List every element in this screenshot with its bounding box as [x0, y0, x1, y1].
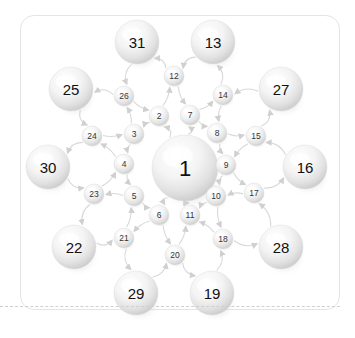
node-label: 13 — [205, 34, 222, 51]
graph-node-25[interactable]: 25 — [49, 67, 93, 111]
graph-edge — [125, 249, 131, 270]
graph-node-29[interactable]: 29 — [114, 271, 158, 315]
graph-edge — [106, 193, 123, 195]
graph-node-31[interactable]: 31 — [115, 20, 159, 64]
figure-canvas: 1234567891011121314151617181920212223242… — [0, 0, 355, 338]
graph-edge — [163, 87, 170, 105]
graph-node-3[interactable]: 3 — [124, 124, 144, 144]
graph-edge — [234, 241, 257, 246]
graph-node-6[interactable]: 6 — [149, 205, 169, 225]
graph-edge — [183, 57, 196, 68]
graph-edge — [163, 225, 170, 244]
graph-edge — [134, 221, 150, 231]
graph-edge — [101, 144, 116, 157]
graph-edge — [235, 89, 258, 94]
graph-edge — [82, 204, 90, 224]
node-label: 15 — [251, 131, 261, 141]
node-label: 3 — [132, 129, 137, 139]
node-label: 16 — [297, 159, 314, 176]
node-label: 20 — [170, 250, 180, 260]
node-label: 4 — [122, 159, 127, 169]
graph-node-27[interactable]: 27 — [259, 67, 303, 111]
graph-node-9[interactable]: 9 — [216, 155, 236, 175]
graph-node-10[interactable]: 10 — [206, 186, 226, 206]
node-label: 10 — [211, 191, 221, 201]
graph-node-19[interactable]: 19 — [190, 271, 234, 315]
graph-node-24[interactable]: 24 — [82, 126, 102, 146]
node-label: 17 — [249, 188, 259, 198]
node-label: 30 — [40, 159, 57, 176]
graph-edge — [102, 172, 116, 186]
graph-node-13[interactable]: 13 — [191, 20, 235, 64]
graph-edge — [95, 90, 113, 95]
graph-edge — [261, 110, 270, 126]
graph-edge — [97, 240, 113, 245]
node-label: 2 — [157, 111, 162, 121]
graph-edge — [127, 108, 131, 124]
node-label: 26 — [119, 91, 129, 101]
node-label: 8 — [215, 128, 220, 138]
node-label: 19 — [204, 285, 221, 302]
graph-node-23[interactable]: 23 — [84, 184, 104, 204]
node-label: 24 — [87, 131, 97, 141]
graph-node-21[interactable]: 21 — [114, 228, 134, 248]
graph-edge — [134, 101, 149, 110]
node-label: 11 — [186, 210, 195, 220]
graph-edge — [259, 204, 270, 227]
graph-node-22[interactable]: 22 — [52, 225, 96, 269]
graph-edge — [68, 142, 83, 153]
graph-node-28[interactable]: 28 — [259, 225, 303, 269]
graph-edge — [228, 134, 244, 136]
graph-node-16[interactable]: 16 — [283, 145, 327, 189]
graph-node-5[interactable]: 5 — [124, 186, 144, 206]
graph-edge — [235, 144, 248, 157]
graph-edge — [218, 106, 221, 121]
node-label: 1 — [179, 156, 191, 181]
node-label: 18 — [218, 234, 228, 244]
node-label: 5 — [132, 191, 137, 201]
graph-node-12[interactable]: 12 — [164, 66, 184, 86]
graph-edge — [217, 207, 221, 227]
node-label: 12 — [169, 71, 179, 81]
node-label: 22 — [66, 239, 83, 256]
graph-edge — [217, 251, 223, 271]
graph-edge — [179, 226, 186, 244]
node-label: 6 — [157, 210, 162, 220]
graph-node-8[interactable]: 8 — [207, 123, 227, 143]
graph-edge — [199, 101, 212, 109]
graph-svg: 1234567891011121314151617181920212223242… — [0, 0, 355, 338]
node-label: 29 — [128, 285, 145, 302]
graph-node-20[interactable]: 20 — [165, 245, 185, 265]
graph-edge — [144, 122, 150, 127]
graph-edge — [228, 193, 243, 195]
bottom-dotted-separator — [0, 306, 340, 307]
graph-node-30[interactable]: 30 — [26, 145, 70, 189]
node-label: 25 — [63, 81, 80, 98]
graph-node-17[interactable]: 17 — [244, 183, 264, 203]
node-label: 21 — [119, 233, 129, 243]
graph-edge — [127, 208, 132, 228]
graph-node-18[interactable]: 18 — [213, 229, 233, 249]
graph-node-15[interactable]: 15 — [246, 126, 266, 146]
node-label: 31 — [129, 34, 146, 51]
graph-node-14[interactable]: 14 — [213, 85, 233, 105]
node-label: 7 — [188, 110, 193, 120]
graph-node-2[interactable]: 2 — [149, 106, 169, 126]
graph-edge — [178, 86, 185, 104]
graph-edge — [103, 135, 122, 137]
node-label: 14 — [218, 90, 228, 100]
graph-node-4[interactable]: 4 — [114, 154, 134, 174]
graph-edge — [152, 263, 166, 277]
graph-edge — [164, 127, 170, 138]
graph-edge — [266, 142, 285, 154]
graph-node-7[interactable]: 7 — [180, 105, 200, 125]
node-label: 9 — [224, 160, 229, 170]
node-label: 27 — [273, 81, 290, 98]
graph-edge — [264, 178, 284, 188]
node-label: 23 — [89, 189, 99, 199]
graph-node-26[interactable]: 26 — [114, 86, 134, 106]
node-label: 28 — [273, 239, 290, 256]
graph-edge — [200, 222, 214, 232]
graph-node-11[interactable]: 11 — [180, 205, 200, 225]
